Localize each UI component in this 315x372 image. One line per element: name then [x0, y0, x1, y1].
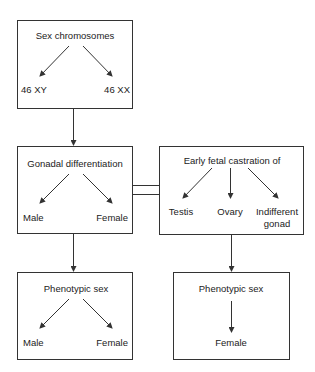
indifferent-label: Indifferent	[256, 206, 298, 217]
ovary-label: Ovary	[217, 206, 242, 217]
phenotypic-sex-title-left: Phenotypic sex	[44, 283, 108, 294]
gonad-male-label: Male	[23, 212, 44, 223]
karyotype-46xy-label: 46 XY	[21, 84, 47, 95]
phenotype-female-label: Female	[96, 337, 128, 348]
phenotypic-sex-title-right: Phenotypic sex	[199, 283, 263, 294]
gonad-label: gonad	[264, 218, 290, 229]
sex-chromosomes-title: Sex chromosomes	[36, 30, 115, 41]
phenotype-male-label: Male	[23, 337, 44, 348]
early-fetal-castration-title: Early fetal castration of	[184, 155, 281, 166]
testis-label: Testis	[169, 206, 193, 217]
diagram-canvas	[0, 0, 315, 372]
karyotype-46xx-label: 46 XX	[104, 84, 130, 95]
gonad-female-label: Female	[96, 212, 128, 223]
gonadal-differentiation-title: Gonadal differentiation	[27, 158, 122, 169]
phenotype-female-only-label: Female	[215, 337, 247, 348]
